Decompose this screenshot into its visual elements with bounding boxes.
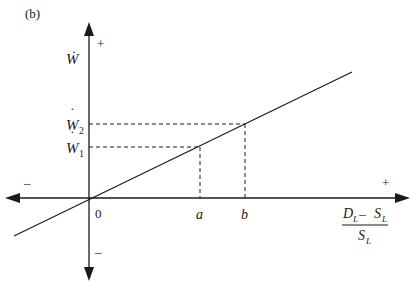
x-negative-sign: – xyxy=(23,175,31,190)
x-label-num-s-sub: L xyxy=(381,214,387,224)
x-positive-sign: + xyxy=(382,175,389,190)
panel-label: (b) xyxy=(25,6,40,21)
origin-label: 0 xyxy=(95,206,102,221)
y-negative-sign: – xyxy=(94,244,102,259)
x-label-minus: – xyxy=(356,206,369,221)
x-axis-label: D L – S L S L xyxy=(342,206,388,246)
relationship-line xyxy=(14,72,352,236)
x-tick-a: a xyxy=(196,207,203,222)
y-axis-label: Ẇ xyxy=(66,51,80,67)
y-tick-w2: ˙ W 2 xyxy=(66,106,84,136)
x-label-den-s: S xyxy=(358,228,365,243)
y-tick-w1-base: W xyxy=(66,140,80,156)
y-positive-sign: + xyxy=(97,36,104,51)
diagram-canvas: (b) + – – + Ẇ ˙ W 2 ˙ W 1 0 a b D L – S … xyxy=(0,0,419,283)
x-axis-arrow-left-icon xyxy=(5,193,20,203)
y-tick-w1-sub: 1 xyxy=(79,148,84,159)
y-tick-w2-sub: 2 xyxy=(79,125,84,136)
x-label-num-s: S xyxy=(374,206,381,221)
x-label-num-d: D xyxy=(342,206,353,221)
x-label-den-s-sub: L xyxy=(365,236,371,246)
x-axis-arrow-right-icon xyxy=(395,193,410,203)
y-axis-arrow-up-icon xyxy=(84,22,94,36)
y-axis-arrow-down-icon xyxy=(84,267,94,281)
x-tick-b: b xyxy=(241,207,248,222)
